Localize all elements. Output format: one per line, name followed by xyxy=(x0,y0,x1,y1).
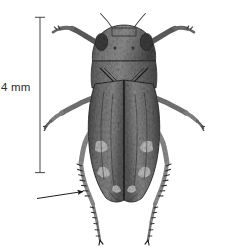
scale-bar xyxy=(35,17,45,173)
arrow-line xyxy=(37,192,83,199)
forewing-right xyxy=(124,80,160,202)
hindleg-right-tarsus-2 xyxy=(148,222,151,240)
midleg-left-tibia xyxy=(51,113,62,121)
specimen-figure: 4 mm xyxy=(0,0,226,250)
foreleg-right-tibia xyxy=(175,28,187,29)
hindleg-left-tarsus-2 xyxy=(97,222,100,240)
antenna-left xyxy=(101,14,114,30)
midleg-right-tibia xyxy=(186,113,197,121)
body-group xyxy=(88,25,160,202)
hindleg-left-tibia xyxy=(81,163,93,204)
hindleg-left-claw xyxy=(99,240,103,245)
ocellus-left xyxy=(114,47,117,50)
annotation-arrow xyxy=(37,192,83,199)
scale-bar-label: 4 mm xyxy=(1,80,31,94)
forewing-left xyxy=(88,80,124,202)
compound-eye-left xyxy=(95,33,107,50)
ocellus-right xyxy=(132,47,135,50)
midleg-right-tarsus xyxy=(197,121,203,128)
insect-specimen xyxy=(43,14,205,246)
midleg-left-tarsus xyxy=(45,121,51,128)
hindleg-right-tibia xyxy=(155,163,167,204)
compound-eye-right xyxy=(140,33,152,50)
hindleg-right-claw xyxy=(145,240,149,245)
specimen-illustration xyxy=(0,0,226,250)
foreleg-left-tibia xyxy=(60,28,72,29)
